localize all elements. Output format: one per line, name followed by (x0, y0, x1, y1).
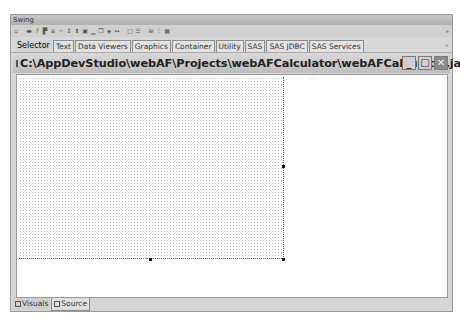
align-icon[interactable]: ☰ (135, 28, 141, 34)
component-toolbar: ▫ ▬ ? ▛ ≡ ─ ↕ ⬆ ▣ ▁ ❐ ◈ ↔ □ ☰ ⊞ ⫶ ▦ ▸ (11, 25, 452, 37)
window-controls: _ □ ✕ (402, 56, 448, 70)
tab-container[interactable]: Container (172, 40, 215, 52)
label-icon[interactable]: ▬ (26, 28, 32, 34)
separator-icon[interactable]: ─ (58, 28, 64, 34)
frame-design-grid[interactable] (19, 77, 284, 259)
image-icon[interactable]: ◈ (106, 28, 112, 34)
tab-text[interactable]: Text (53, 40, 74, 52)
resize-handle-corner[interactable] (282, 258, 285, 261)
visuals-icon (15, 301, 21, 307)
panel-icon[interactable]: ▣ (82, 28, 88, 34)
toolbar-scroll-right-icon[interactable]: ▸ (446, 27, 449, 34)
arrow-icon[interactable]: ▫ (13, 28, 19, 34)
resize-handle-right[interactable] (282, 165, 285, 168)
table-icon[interactable]: ⬆ (74, 28, 80, 34)
grid-icon[interactable]: ⊞ (148, 28, 154, 34)
chart-icon[interactable]: ▁ (90, 28, 96, 34)
minimize-button[interactable]: _ (402, 56, 416, 70)
tab-source[interactable]: Source (51, 298, 90, 311)
tab-selector[interactable]: Selector (15, 40, 52, 52)
tab-sas-jdbc[interactable]: SAS JDBC (266, 40, 307, 52)
copy-icon[interactable]: ❐ (98, 28, 104, 34)
palette-title: Swing (11, 15, 452, 25)
tab-data-viewers[interactable]: Data Viewers (75, 40, 131, 52)
resize-handle-bottom[interactable] (149, 258, 152, 261)
tab-utility[interactable]: Utility (216, 40, 244, 52)
format-icon[interactable]: ⫶ (156, 28, 162, 34)
tab-source-label: Source (61, 298, 87, 310)
visual-design-canvas[interactable] (16, 74, 448, 298)
editor-title: C:\AppDevStudio\webAF\Projects\webAFCalc… (20, 57, 460, 70)
help-icon[interactable]: ? (34, 28, 40, 34)
tree-icon[interactable]: ▛ (42, 28, 48, 34)
box-icon[interactable]: □ (127, 28, 133, 34)
close-button[interactable]: ✕ (434, 56, 448, 70)
slider-icon[interactable]: ↕ (66, 28, 72, 34)
editor-title-bar: C:\AppDevStudio\webAF\Projects\webAFCalc… (13, 54, 450, 73)
tab-visuals[interactable]: Visuals (13, 298, 50, 310)
maximize-button[interactable]: □ (418, 56, 432, 70)
view-tabs: Visuals Source (13, 298, 91, 311)
ide-window: Swing ▫ ▬ ? ▛ ≡ ─ ↕ ⬆ ▣ ▁ ❐ ◈ ↔ □ ☰ ⊞ ⫶ … (10, 14, 453, 312)
layout-icon[interactable]: ▦ (164, 28, 170, 34)
tab-visuals-label: Visuals (22, 298, 48, 310)
tab-graphics[interactable]: Graphics (132, 40, 171, 52)
source-icon (54, 301, 60, 307)
tab-sas-services[interactable]: SAS Services (309, 40, 364, 52)
tabs-scroll-icon[interactable]: ▸ (446, 41, 449, 48)
tab-sas[interactable]: SAS (245, 40, 266, 52)
document-icon (16, 60, 18, 67)
list-icon[interactable]: ≡ (50, 28, 56, 34)
scroll-icon[interactable]: ↔ (114, 28, 120, 34)
palette-tabs: Selector Text Data Viewers Graphics Cont… (11, 38, 452, 53)
